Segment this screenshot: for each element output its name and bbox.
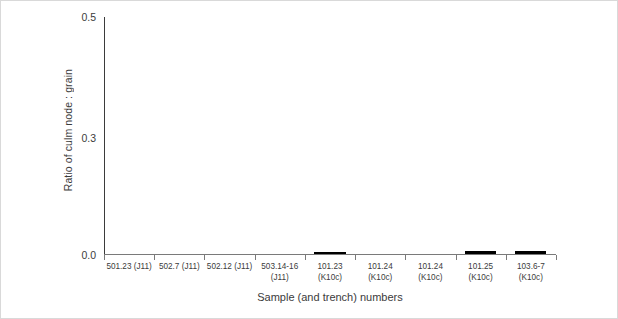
x-tick-label-line: (K10c) bbox=[306, 272, 354, 283]
bar[interactable] bbox=[314, 252, 345, 254]
x-tick-label-line: 101.24 bbox=[406, 261, 454, 272]
x-tick-label-line: (K10c) bbox=[457, 272, 505, 283]
bar-slot bbox=[104, 17, 154, 254]
x-axis-tick bbox=[456, 255, 457, 260]
bar[interactable] bbox=[465, 251, 496, 254]
chart-figure: Ratio of culm node : grain 0.5 0.3 0.0 5… bbox=[0, 0, 618, 319]
x-tick-label: 502.12 (J11) bbox=[204, 261, 254, 283]
x-tick-label-line: 501.23 (J11) bbox=[105, 261, 153, 272]
x-axis-title: Sample (and trench) numbers bbox=[104, 291, 556, 303]
x-tick-label-line: 101.25 bbox=[457, 261, 505, 272]
x-tick-label-line: (J11) bbox=[256, 272, 304, 283]
x-axis-tick bbox=[506, 255, 507, 260]
x-tick-label-line: (K10c) bbox=[507, 272, 555, 283]
x-axis-tick bbox=[154, 255, 155, 260]
y-tick-label-0: 0.5 bbox=[61, 11, 101, 23]
x-tick-label: 502.7 (J11) bbox=[154, 261, 204, 283]
x-tick-label: 101.23(K10c) bbox=[305, 261, 355, 283]
x-tick-label: 101.24(K10c) bbox=[405, 261, 455, 283]
bar-series bbox=[104, 17, 556, 254]
plot-area bbox=[104, 17, 556, 255]
x-axis-tick bbox=[104, 255, 105, 260]
y-axis-tick-labels: 0.5 0.3 0.0 bbox=[61, 1, 101, 319]
x-tick-label: 501.23 (J11) bbox=[104, 261, 154, 283]
x-tick-label-line: 101.24 bbox=[356, 261, 404, 272]
x-tick-label: 101.24(K10c) bbox=[355, 261, 405, 283]
x-axis-ticks bbox=[104, 255, 557, 260]
bar-slot bbox=[305, 17, 355, 254]
x-tick-label-line: 502.12 (J11) bbox=[205, 261, 253, 272]
x-axis-tick bbox=[305, 255, 306, 260]
bar[interactable] bbox=[515, 251, 546, 254]
x-tick-label: 503.14-16(J11) bbox=[255, 261, 305, 283]
x-tick-label-line: (K10c) bbox=[406, 272, 454, 283]
x-tick-label-line: 502.7 (J11) bbox=[155, 261, 203, 272]
x-axis-tick bbox=[405, 255, 406, 260]
bar-slot bbox=[355, 17, 405, 254]
x-axis-tick bbox=[255, 255, 256, 260]
bar-slot bbox=[506, 17, 556, 254]
x-axis-tick bbox=[204, 255, 205, 260]
x-tick-label-line: 101.23 bbox=[306, 261, 354, 272]
x-axis-tick bbox=[355, 255, 356, 260]
x-axis-tick bbox=[556, 255, 557, 260]
x-tick-label-line: 503.14-16 bbox=[256, 261, 304, 272]
bar-slot bbox=[204, 17, 254, 254]
bar-slot bbox=[405, 17, 455, 254]
bar-slot bbox=[456, 17, 506, 254]
y-tick-label-2: 0.0 bbox=[61, 249, 101, 261]
x-tick-label: 103.6-7(K10c) bbox=[506, 261, 556, 283]
y-tick-label-1: 0.3 bbox=[61, 132, 101, 144]
bar-slot bbox=[255, 17, 305, 254]
x-tick-label-line: 103.6-7 bbox=[507, 261, 555, 272]
x-tick-label: 101.25(K10c) bbox=[456, 261, 506, 283]
x-axis-tick-labels: 501.23 (J11)502.7 (J11)502.12 (J11)503.1… bbox=[104, 261, 556, 283]
bar-slot bbox=[154, 17, 204, 254]
x-tick-label-line: (K10c) bbox=[356, 272, 404, 283]
